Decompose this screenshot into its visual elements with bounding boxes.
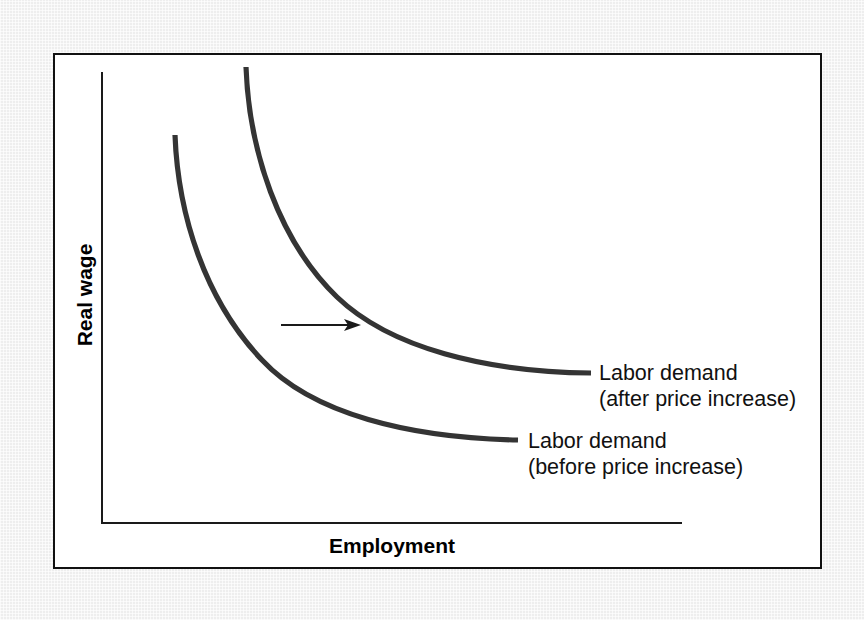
figure-frame — [53, 53, 822, 569]
